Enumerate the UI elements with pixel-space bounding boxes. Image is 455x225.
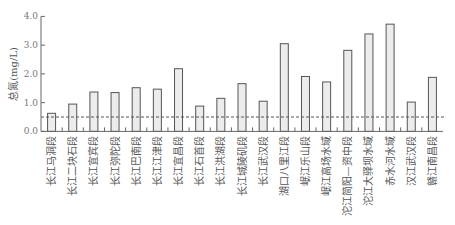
total-nitrogen-bar-chart: 总氮(mg/L) 0.01.02.03.04.0 长江马洞段长江二块石段长江宜宾… <box>0 0 455 225</box>
bar <box>280 44 288 132</box>
bar <box>48 113 56 131</box>
y-axis-ticks: 0.01.02.03.04.0 <box>24 11 45 136</box>
x-category-label: 长江马洞段 <box>45 136 57 186</box>
bar <box>386 24 394 131</box>
y-tick-label: 1.0 <box>24 98 39 108</box>
x-category-label: 岷江高场水域 <box>320 136 332 196</box>
x-category-label: 长江宜宾段 <box>87 136 99 186</box>
x-category-label: 沱江大驿坝水域 <box>362 136 374 206</box>
y-tick-label: 2.0 <box>24 69 39 79</box>
bar <box>301 76 309 131</box>
x-category-label: 岷江乐山段 <box>299 136 311 186</box>
x-category-label: 湖口八里江段 <box>278 136 290 196</box>
bar <box>259 101 267 131</box>
x-category-label: 长江城陵矶段 <box>236 136 248 196</box>
bar <box>196 106 204 131</box>
x-axis-labels: 长江马洞段长江二块石段长江宜宾段长江弥陀段长江巴南段长江江津段长江宜昌段长江石首… <box>45 136 438 216</box>
bar <box>132 88 140 132</box>
bar <box>217 98 225 131</box>
bar <box>111 93 119 132</box>
bar <box>153 89 161 131</box>
bar <box>175 69 183 132</box>
bar <box>344 50 352 131</box>
x-category-label: 沱江简阳—资中段 <box>341 136 353 216</box>
x-category-label: 长江石首段 <box>193 136 205 186</box>
x-category-label: 长江二块石段 <box>66 136 78 196</box>
x-category-label: 长江巴南段 <box>130 136 142 186</box>
x-category-label: 长江江津段 <box>151 136 163 186</box>
x-category-label: 长江弥陀段 <box>109 136 121 186</box>
y-axis-title: 总氮(mg/L) <box>7 47 19 101</box>
y-tick-label: 4.0 <box>24 11 39 21</box>
bar <box>69 104 77 131</box>
bar <box>238 84 246 132</box>
x-category-label: 长江洪湖段 <box>214 136 226 186</box>
bar <box>428 77 436 131</box>
x-category-label: 汉江武汉段 <box>405 136 417 186</box>
bar <box>90 92 98 131</box>
x-category-label: 赣江南昌段 <box>426 136 438 186</box>
y-tick-label: 3.0 <box>24 40 39 50</box>
y-tick-label: 0.0 <box>24 126 39 136</box>
x-category-label: 长江武汉段 <box>257 136 269 186</box>
bars <box>48 24 437 131</box>
x-category-label: 赤水河水域 <box>384 136 396 186</box>
x-category-label: 长江宜昌段 <box>172 136 184 186</box>
bar <box>323 82 331 131</box>
